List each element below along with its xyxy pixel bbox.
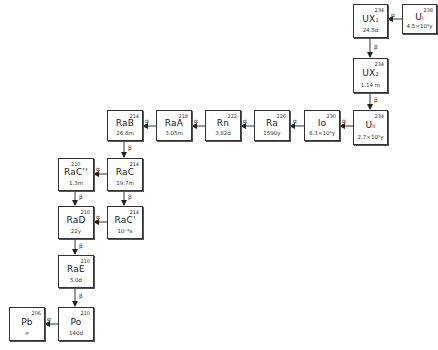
- mass-number: 234: [374, 113, 384, 119]
- edge-label-alpha: α: [47, 315, 51, 322]
- edge-label-alpha: α: [391, 11, 395, 18]
- node-rae: 210 RaE 5.0d: [58, 255, 94, 288]
- element-symbol: UII: [354, 120, 387, 130]
- half-life: 22y: [59, 228, 93, 234]
- mass-number: 234: [374, 61, 384, 67]
- node-raa: 218 RaA 3.05m: [156, 110, 192, 141]
- edge-label-beta: β: [128, 193, 132, 200]
- node-pb: 206 Pb ∞: [9, 307, 45, 341]
- element-symbol: Po: [59, 317, 93, 327]
- node-rac-double-prime: 210 RaC'' 1.3m: [58, 158, 94, 191]
- mass-number: 210: [80, 310, 90, 316]
- element-symbol: Pb: [10, 317, 44, 327]
- node-po: 210 Po 140d: [58, 307, 94, 341]
- half-life: 10⁻⁶s: [108, 228, 142, 234]
- edge-label-alpha: α: [96, 213, 100, 220]
- node-rac: 214 RaC 19.7m: [107, 158, 143, 191]
- half-life: ∞: [10, 330, 44, 336]
- element-symbol: Io: [305, 118, 339, 128]
- element-symbol: UI: [403, 12, 436, 22]
- node-ux2: 234 UX2 1.14 m: [353, 58, 388, 93]
- edge-label-alpha: α: [342, 117, 346, 124]
- edge-label-alpha: α: [293, 117, 297, 124]
- half-life: 24.5d: [354, 27, 387, 33]
- edge-label-beta: β: [79, 242, 83, 249]
- half-life: 4.5×10⁹y: [403, 23, 436, 29]
- element-symbol: RaC'': [59, 167, 93, 177]
- node-rn: 222 Rn 3.82d: [205, 110, 241, 141]
- edge-label-beta: β: [374, 43, 378, 50]
- element-symbol: RaC': [108, 215, 142, 225]
- half-life: 5.0d: [59, 277, 93, 283]
- node-u234: 234 UII 2.7×10⁵y: [353, 110, 388, 145]
- element-symbol: RaB: [108, 118, 142, 128]
- half-life: 1590y: [255, 130, 289, 136]
- edge-label-alpha: α: [145, 117, 149, 124]
- edge-label-alpha: α: [243, 117, 247, 124]
- node-rab: 214 RaB 26.8m: [107, 110, 143, 141]
- node-rac-prime: 214 RaC' 10⁻⁶s: [107, 206, 143, 239]
- node-rad: 210 RaD 22y: [58, 206, 94, 239]
- element-symbol: RaD: [59, 215, 93, 225]
- element-symbol: Ra: [255, 118, 289, 128]
- half-life: 19.7m: [108, 180, 142, 186]
- edge-label-alpha: α: [96, 165, 100, 172]
- element-symbol: RaC: [108, 167, 142, 177]
- node-ra: 226 Ra 1590y: [254, 110, 290, 141]
- mass-number: 234: [374, 7, 384, 13]
- mass-number: 206: [31, 310, 41, 316]
- half-life: 8.3×10⁴y: [305, 130, 339, 136]
- node-u238: 238 UI 4.5×10⁹y: [402, 4, 437, 34]
- element-symbol: Rn: [206, 118, 240, 128]
- half-life: 1.3m: [59, 180, 93, 186]
- half-life: 3.05m: [157, 130, 191, 136]
- half-life: 1.14 m: [354, 82, 387, 88]
- edge-label-beta: β: [79, 193, 83, 200]
- half-life: 2.7×10⁵y: [354, 134, 387, 140]
- element-symbol: UX1: [354, 14, 387, 24]
- node-io: 230 Io 8.3×10⁴y: [304, 110, 340, 141]
- element-symbol: RaA: [157, 118, 191, 128]
- edge-label-alpha: α: [194, 117, 198, 124]
- element-symbol: UX2: [354, 68, 387, 78]
- node-ux1: 234 UX1 24.5d: [353, 4, 388, 38]
- half-life: 140d: [59, 330, 93, 336]
- half-life: 26.8m: [108, 130, 142, 136]
- edge-label-beta: β: [128, 144, 132, 151]
- element-symbol: RaE: [59, 264, 93, 274]
- edge-label-beta: β: [374, 96, 378, 103]
- half-life: 3.82d: [206, 130, 240, 136]
- edge-label-beta: β: [79, 292, 83, 299]
